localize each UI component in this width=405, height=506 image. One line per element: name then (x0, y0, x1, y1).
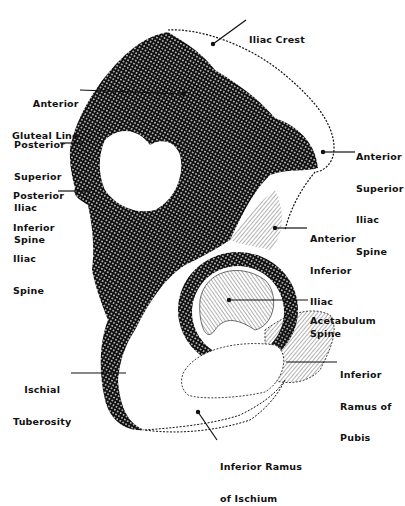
label-acetabulum: Acetabulum (310, 295, 376, 337)
label-anterior-superior-iliac-spine: Anterior Superior Iliac Spine (356, 131, 404, 268)
label-inferior-ramus-of-pubis: Inferior Ramus of Pubis (340, 349, 392, 454)
label-inferior-ramus-of-ischium: Inferior Ramus of Ischium (220, 441, 302, 506)
leader-iliac-crest (213, 20, 246, 44)
label-posterior-inferior-iliac-spine: Posterior Inferior Iliac Spine (13, 170, 64, 307)
label-ischial-tuberosity: Ischial Tuberosity (13, 364, 71, 438)
label-iliac-crest: Iliac Crest (249, 14, 305, 56)
